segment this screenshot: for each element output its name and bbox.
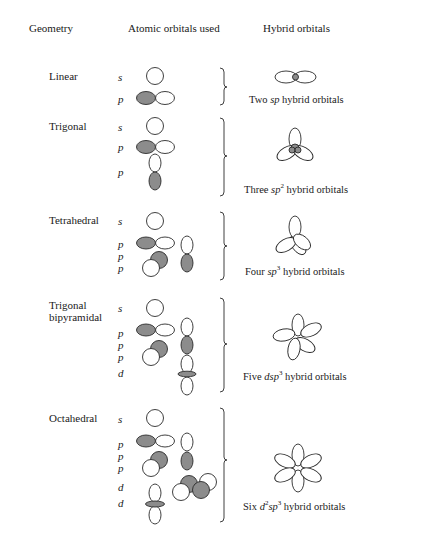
octahedral-atomic-orbitals bbox=[137, 410, 217, 525]
d2sp3-hybrid-icon bbox=[272, 444, 323, 492]
dz2-orbital-icon bbox=[146, 484, 165, 524]
s-orbital-icon bbox=[147, 118, 164, 135]
trigonal-atomic-orbitals bbox=[137, 118, 175, 191]
pz-orbital-icon bbox=[143, 452, 168, 477]
bracket-linear bbox=[220, 68, 227, 105]
trigonal-bipyramidal-atomic-orbitals bbox=[137, 300, 197, 396]
s-orbital-icon bbox=[147, 300, 164, 317]
px-orbital-icon bbox=[137, 435, 175, 447]
s-orbital-icon bbox=[147, 68, 164, 85]
bracket-trigonal-bipyramidal bbox=[220, 298, 227, 392]
px-orbital-icon bbox=[137, 237, 175, 249]
dsp3-hybrid-icon bbox=[272, 314, 323, 361]
dz2-orbital-icon bbox=[178, 355, 196, 395]
s-orbital-icon bbox=[147, 213, 164, 230]
px-orbital-icon bbox=[137, 141, 175, 154]
pz-orbital-icon bbox=[143, 252, 168, 277]
py-orbital-icon bbox=[181, 433, 193, 470]
dx2y2-orbital-icon bbox=[173, 474, 217, 501]
py-orbital-icon bbox=[181, 236, 193, 272]
bracket-trigonal bbox=[220, 118, 227, 196]
orbital-diagram bbox=[0, 0, 434, 552]
sp3-hybrid-icon bbox=[273, 216, 313, 257]
py-orbital-icon bbox=[149, 154, 161, 190]
py-orbital-icon bbox=[181, 318, 193, 354]
bracket-octahedral bbox=[220, 408, 227, 522]
px-orbital-icon bbox=[137, 324, 175, 336]
sp-hybrid-icon bbox=[275, 71, 316, 83]
px-orbital-icon bbox=[137, 92, 175, 105]
bracket-tetrahedral bbox=[220, 212, 227, 280]
pz-orbital-icon bbox=[143, 341, 168, 366]
linear-atomic-orbitals bbox=[137, 68, 175, 105]
tetrahedral-atomic-orbitals bbox=[137, 213, 194, 277]
s-orbital-icon bbox=[147, 410, 164, 427]
sp2-hybrid-icon bbox=[274, 128, 315, 164]
